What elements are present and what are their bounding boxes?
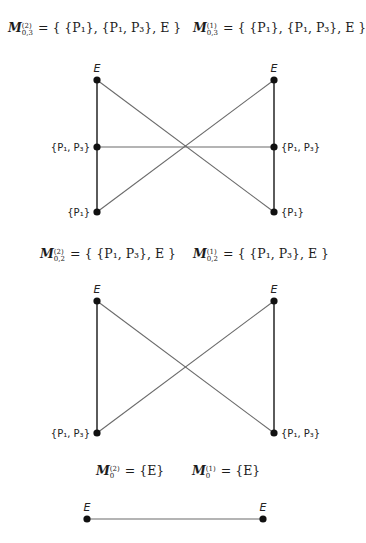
node-label: {P₁, P₃}	[281, 142, 320, 153]
graph-node	[93, 76, 100, 83]
graph-node	[259, 515, 266, 522]
node-label: E	[84, 501, 91, 514]
graph-node	[270, 143, 277, 150]
node-label: E	[271, 62, 278, 75]
graph-labels: E{P₁, P₃}{P₁}E{P₁, P₃}{P₁}E{P₁, P₃}E{P₁,…	[51, 62, 320, 514]
node-label: E	[260, 501, 267, 514]
node-label: {P₁, P₃}	[51, 428, 90, 439]
node-label: E	[94, 62, 101, 75]
graph-node	[270, 297, 277, 304]
graph-node	[83, 515, 90, 522]
node-label: {P₁}	[67, 207, 90, 218]
graph-node	[93, 429, 100, 436]
node-label: {P₁, P₃}	[51, 142, 90, 153]
graph-node	[93, 143, 100, 150]
graph-node	[270, 76, 277, 83]
node-label: E	[271, 283, 278, 296]
node-label: {P₁, P₃}	[281, 428, 320, 439]
graph-nodes	[83, 76, 277, 522]
graph-edges	[87, 80, 274, 519]
node-label: {P₁}	[281, 207, 304, 218]
node-label: E	[94, 283, 101, 296]
graph-node	[270, 208, 277, 215]
graph-node	[93, 297, 100, 304]
graph-node	[270, 429, 277, 436]
graph-node	[93, 208, 100, 215]
